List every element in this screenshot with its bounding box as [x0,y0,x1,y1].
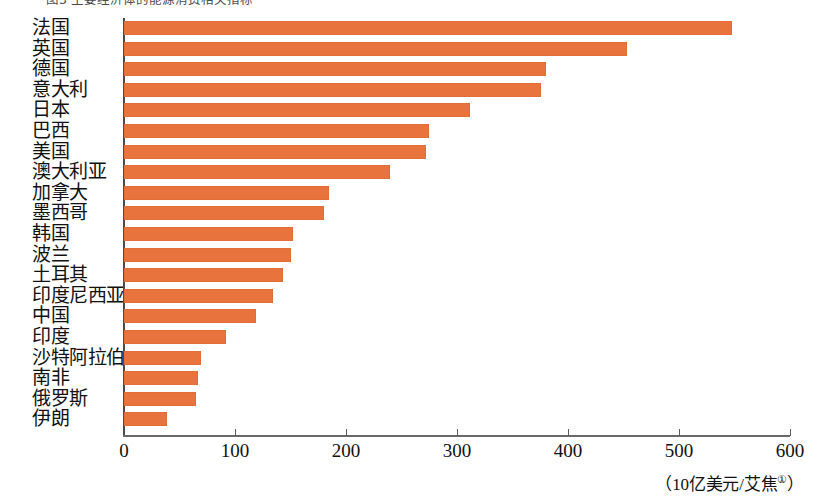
bar [124,330,226,344]
bar-row [124,18,790,39]
y-axis-label: 德国 [0,59,118,80]
x-tick-mark [790,429,791,436]
bar [124,165,390,179]
y-axis-category-labels: 法国英国德国意大利日本巴西美国澳大利亚加拿大墨西哥韩国波兰土耳其印度尼西亚中国印… [0,18,120,436]
bar-row [124,265,790,286]
x-tick-mark [457,429,458,436]
bar-row [124,39,790,60]
x-axis-ticks: 0100200300400500600 [124,436,790,470]
bar-row [124,203,790,224]
x-tick-label: 300 [443,440,472,462]
unit-text: 10亿美元/艾焦 [672,475,777,494]
bar [124,412,167,426]
bar-row [124,286,790,307]
bar [124,42,627,56]
bar-row [124,327,790,348]
unit-footnote-marker: ① [777,473,787,485]
bar-row [124,100,790,121]
y-axis-label: 法国 [0,18,118,39]
bar-row [124,409,790,430]
bar-row [124,306,790,327]
bar-row [124,348,790,369]
y-axis-label: 伊朗 [0,409,118,430]
bar-row [124,59,790,80]
y-axis-label: 俄罗斯 [0,389,118,410]
figure-caption-truncated: 图3 主要经济体的能源消费相关指标 [46,0,296,6]
y-axis-label: 印度尼西亚 [0,286,118,307]
x-tick-mark [346,429,347,436]
y-axis-label: 加拿大 [0,183,118,204]
y-axis-label: 韩国 [0,224,118,245]
bar [124,227,293,241]
y-axis-label: 南非 [0,368,118,389]
bar-series [124,18,790,436]
y-axis-label: 墨西哥 [0,203,118,224]
y-axis-label: 巴西 [0,121,118,142]
bar-row [124,224,790,245]
bar [124,289,273,303]
y-axis-label: 美国 [0,142,118,163]
bar [124,83,541,97]
bar-row [124,368,790,389]
unit-open-paren: （ [655,475,672,494]
y-axis-label: 沙特阿拉伯 [0,348,118,369]
bar [124,248,291,262]
x-tick-mark [679,429,680,436]
x-tick-mark [235,429,236,436]
x-tick-label: 200 [332,440,361,462]
bar-row [124,80,790,101]
y-axis-label: 中国 [0,306,118,327]
bar [124,371,198,385]
bar [124,103,470,117]
bar [124,206,324,220]
bar [124,351,201,365]
bar [124,186,329,200]
y-axis-label: 土耳其 [0,265,118,286]
bar-chart-figure: 图3 主要经济体的能源消费相关指标 法国英国德国意大利日本巴西美国澳大利亚加拿大… [0,0,818,504]
bar-row [124,142,790,163]
bar-row [124,183,790,204]
bar-row [124,121,790,142]
y-axis-label: 澳大利亚 [0,162,118,183]
y-axis-label: 英国 [0,39,118,60]
x-tick-label: 600 [776,440,805,462]
x-tick-label: 100 [221,440,250,462]
x-axis-unit-label: （10亿美元/艾焦①） [655,470,804,495]
bar-row [124,162,790,183]
x-tick-mark [568,429,569,436]
bar [124,392,196,406]
bar [124,145,426,159]
plot-area [124,18,790,436]
bar [124,309,256,323]
y-axis-label: 印度 [0,327,118,348]
y-axis-label: 意大利 [0,80,118,101]
bar-row [124,389,790,410]
bar-row [124,245,790,266]
y-axis-label: 日本 [0,100,118,121]
unit-close-paren: ） [787,475,804,494]
bar [124,62,546,76]
x-tick-label: 0 [119,440,129,462]
y-axis-label: 波兰 [0,245,118,266]
bar [124,268,283,282]
x-tick-label: 500 [665,440,694,462]
x-tick-label: 400 [554,440,583,462]
bar [124,21,732,35]
bar [124,124,429,138]
